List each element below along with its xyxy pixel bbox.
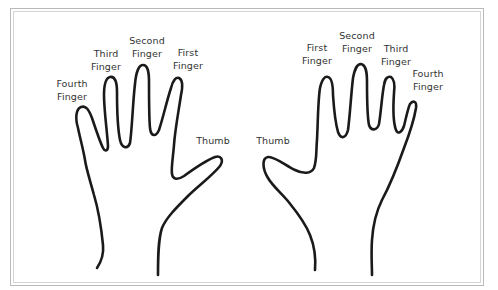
label-right-third-finger: Third Finger xyxy=(381,43,411,68)
hands-illustration xyxy=(0,0,498,290)
label-line: Fourth xyxy=(412,68,443,81)
label-line: Thumb xyxy=(256,135,290,148)
right-hand-outline xyxy=(264,64,417,275)
label-line: Third xyxy=(91,48,121,61)
label-left-thumb: Thumb xyxy=(196,135,230,148)
label-left-second-finger: Second Finger xyxy=(129,35,165,60)
left-hand-outline xyxy=(76,65,222,275)
label-line: Finger xyxy=(381,56,411,69)
label-right-fourth-finger: Fourth Finger xyxy=(412,68,443,93)
label-line: Second xyxy=(339,30,375,43)
label-line: Finger xyxy=(129,48,165,61)
label-right-first-finger: First Finger xyxy=(302,42,332,67)
label-line: Finger xyxy=(412,81,443,94)
label-line: Fourth xyxy=(56,78,87,91)
label-line: Finger xyxy=(56,91,87,104)
label-left-third-finger: Third Finger xyxy=(91,48,121,73)
label-line: Third xyxy=(381,43,411,56)
label-line: Finger xyxy=(91,61,121,74)
label-line: Second xyxy=(129,35,165,48)
label-line: Finger xyxy=(339,43,375,56)
label-left-fourth-finger: Fourth Finger xyxy=(56,78,87,103)
label-line: First xyxy=(302,42,332,55)
label-left-first-finger: First Finger xyxy=(173,47,203,72)
label-right-second-finger: Second Finger xyxy=(339,30,375,55)
label-right-thumb: Thumb xyxy=(256,135,290,148)
label-line: Finger xyxy=(302,55,332,68)
label-line: First xyxy=(173,47,203,60)
label-line: Finger xyxy=(173,60,203,73)
label-line: Thumb xyxy=(196,135,230,148)
